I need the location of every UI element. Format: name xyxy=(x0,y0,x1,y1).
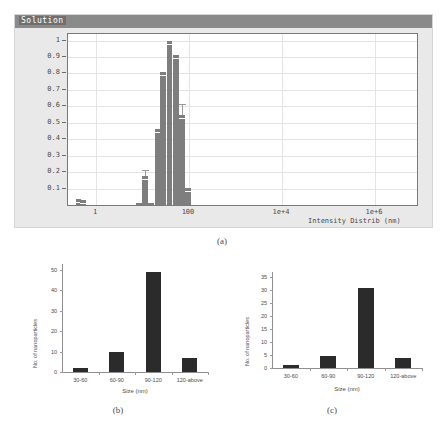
y-axis-tick-label: 25 xyxy=(232,300,267,306)
x-axis-label-b: Size (nm) xyxy=(62,388,208,394)
y-axis-tick-mark-a xyxy=(62,122,66,123)
x-axis-tick-label-a: 1 xyxy=(73,208,117,216)
x-axis-tick-mark xyxy=(347,368,348,371)
panel-a-x-axis-label: Intensity Distrib (nm) xyxy=(308,217,401,225)
x-axis-tick-mark xyxy=(422,368,423,371)
y-axis-tick-mark xyxy=(60,270,63,271)
bar xyxy=(320,356,336,368)
histogram-bar-cap xyxy=(142,179,148,180)
x-axis-category-label: 60-90 xyxy=(99,377,136,383)
bar xyxy=(182,358,197,372)
y-axis-tick-label: 50 xyxy=(18,267,57,273)
y-axis-tick-mark-a xyxy=(62,138,66,139)
y-axis-tick-mark xyxy=(270,277,273,278)
histogram-bar-cap xyxy=(173,58,179,59)
y-axis-tick-label: 5 xyxy=(232,352,267,358)
panel-a-titlebar xyxy=(15,15,432,28)
y-axis-tick-label-a: 0.1 xyxy=(15,184,60,192)
y-axis-tick-label-a: 0.4 xyxy=(15,134,60,142)
histogram-bar xyxy=(167,41,173,205)
x-axis-label-c: Size (nm) xyxy=(272,386,422,392)
y-axis-tick-label: 20 xyxy=(232,313,267,319)
y-axis-tick-label-a: 0.2 xyxy=(15,167,60,175)
y-axis-tick-mark xyxy=(270,368,273,369)
x-axis-tick-mark xyxy=(208,372,209,375)
gridline-horizontal xyxy=(68,90,417,91)
y-axis-tick-label: 0 xyxy=(18,369,57,375)
y-axis-tick-mark xyxy=(60,352,63,353)
gridline-horizontal xyxy=(68,41,417,42)
histogram-bar xyxy=(179,115,185,205)
histogram-bar xyxy=(173,55,179,205)
histogram-bar xyxy=(136,203,142,205)
gridline-horizontal xyxy=(68,57,417,58)
x-axis-tick-label-a: 1e+6 xyxy=(352,208,396,216)
gridline-vertical xyxy=(96,34,97,205)
y-axis-tick-label-a: 0.7 xyxy=(15,85,60,93)
y-axis-tick-mark-a xyxy=(62,155,66,156)
histogram-bar-cap xyxy=(179,118,185,119)
y-axis-tick-mark xyxy=(60,311,63,312)
y-axis-tick-label: 35 xyxy=(232,274,267,280)
x-axis-category-label: 30-60 xyxy=(272,373,310,379)
caption-c: (c) xyxy=(232,405,432,415)
y-axis-tick-label-a: 0.5 xyxy=(15,118,60,126)
y-axis-tick-mark xyxy=(270,355,273,356)
y-axis-tick-label: 20 xyxy=(18,328,57,334)
y-axis-tick-label: 30 xyxy=(232,287,267,293)
y-axis-tick-mark xyxy=(270,329,273,330)
panel-a-title: Solution xyxy=(19,16,66,25)
bar xyxy=(395,358,411,368)
histogram-bar-cap xyxy=(167,44,173,45)
y-axis-tick-label-a: 1 xyxy=(15,36,60,44)
x-axis-tick-mark xyxy=(172,372,173,375)
x-axis-category-label: 30-60 xyxy=(62,377,99,383)
gridline-horizontal xyxy=(68,139,417,140)
y-axis-tick-mark-a xyxy=(62,89,66,90)
y-axis-tick-mark-a xyxy=(62,171,66,172)
y-axis-tick-mark-a xyxy=(62,72,66,73)
bar xyxy=(109,352,124,372)
y-axis-label-b: No. of nanoparticles xyxy=(32,319,38,368)
x-axis-category-label: 120-above xyxy=(385,373,423,379)
gridline-vertical xyxy=(189,34,190,205)
y-axis-tick-mark xyxy=(270,342,273,343)
x-axis-category-label: 60-90 xyxy=(310,373,348,379)
y-axis-tick-label: 0 xyxy=(232,365,267,371)
y-axis-tick-mark xyxy=(60,372,63,373)
x-axis-tick-mark xyxy=(135,372,136,375)
y-axis-tick-label-a: 0.8 xyxy=(15,68,60,76)
gridline-horizontal xyxy=(68,172,417,173)
solution-panel: Solution Intensity Distrib (nm) 0.10.20.… xyxy=(14,14,433,228)
histogram-bar xyxy=(142,176,148,205)
y-axis-tick-mark xyxy=(270,303,273,304)
error-bar-whisker xyxy=(182,104,183,116)
y-axis-tick-label: 10 xyxy=(232,339,267,345)
gridline-vertical xyxy=(375,34,376,205)
gridline-horizontal xyxy=(68,106,417,107)
y-axis-tick-label-a: 0.9 xyxy=(15,52,60,60)
x-axis-category-label: 120-above xyxy=(172,377,209,383)
histogram-bar xyxy=(160,72,166,205)
gridline-horizontal xyxy=(68,123,417,124)
histogram-bar-cap xyxy=(160,75,166,76)
y-axis-tick-label: 15 xyxy=(232,326,267,332)
x-axis-tick-label-a: 1e+4 xyxy=(259,208,303,216)
y-axis-tick-label-a: 0.6 xyxy=(15,101,60,109)
y-axis-line xyxy=(62,264,63,373)
bar xyxy=(358,288,374,368)
y-axis-tick-mark-a xyxy=(62,188,66,189)
gridline-horizontal xyxy=(68,156,417,157)
bar xyxy=(146,272,161,372)
x-axis-category-label: 90-120 xyxy=(347,373,385,379)
nanoparticle-size-chart-b: No. of nanoparticles Size (nm) 010203040… xyxy=(18,258,218,403)
x-axis-tick-mark xyxy=(385,368,386,371)
y-axis-tick-mark-a xyxy=(62,105,66,106)
caption-b: (b) xyxy=(18,405,218,415)
nanoparticle-size-chart-c: No. of nanoparticles Size (nm) 051015202… xyxy=(232,268,432,403)
plot-area-c xyxy=(272,272,422,368)
x-axis-tick-label-a: 100 xyxy=(166,208,210,216)
histogram-bar xyxy=(148,203,154,205)
x-axis-tick-mark xyxy=(310,368,311,371)
caption-a: (a) xyxy=(0,236,444,246)
